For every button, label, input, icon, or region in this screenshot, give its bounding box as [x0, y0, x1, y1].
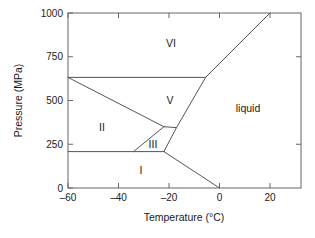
x-tick-label-0: 0 — [217, 192, 223, 203]
y-tick-label-1000: 1000 — [41, 8, 64, 19]
y-tick-label-250: 250 — [46, 139, 63, 150]
phase-label-iii: III — [149, 138, 158, 150]
x-tick-label-minus40: –40 — [110, 192, 127, 203]
x-tick-label-minus60: –60 — [60, 192, 77, 203]
y-tick-label-750: 750 — [46, 51, 63, 62]
y-tick-label-500: 500 — [46, 95, 63, 106]
x-axis-title: Temperature (°C) — [144, 211, 225, 223]
phase-diagram-figure: 0 250 500 750 1000 –60 –40 –20 0 — [0, 0, 315, 238]
y-axis-title: Pressure (MPa) — [12, 64, 24, 138]
phase-label-vi: VI — [166, 37, 176, 49]
phase-label-ii: II — [99, 121, 105, 133]
phase-label-i: I — [140, 164, 143, 176]
phase-label-v: V — [166, 94, 173, 106]
x-tick-label-minus20: –20 — [161, 192, 178, 203]
phase-label-liquid: liquid — [236, 102, 261, 114]
phase-diagram-svg: 0 250 500 750 1000 –60 –40 –20 0 — [0, 0, 315, 238]
x-tick-label-20: 20 — [264, 192, 276, 203]
